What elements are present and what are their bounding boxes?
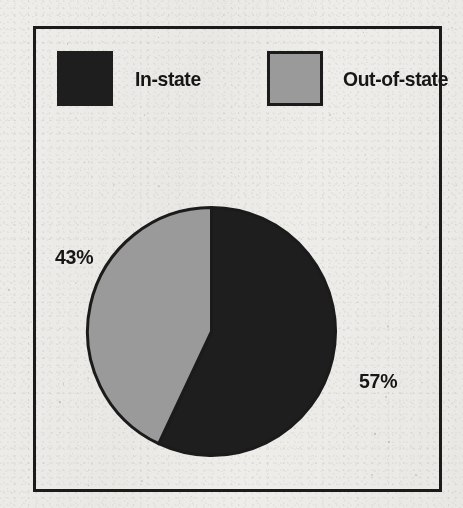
scan-speck	[29, 468, 31, 470]
scan-speck	[24, 100, 25, 101]
scan-speck	[456, 184, 458, 186]
scan-speck	[2, 201, 3, 202]
legend-label-out-of-state: Out-of-state	[343, 67, 448, 91]
scan-speck	[2, 111, 3, 112]
pie-chart-svg	[85, 204, 338, 459]
scan-speck	[459, 357, 460, 358]
scan-speck	[13, 90, 14, 91]
pie-chart-figure: In-state Out-of-state 43% 57%	[0, 0, 463, 508]
scan-speck	[314, 11, 315, 12]
scan-speck	[30, 321, 32, 323]
scan-speck	[461, 227, 462, 228]
scan-speck	[8, 305, 9, 306]
pie-chart	[85, 204, 338, 459]
scan-speck	[20, 6, 21, 7]
scan-speck	[225, 3, 226, 4]
scan-speck	[9, 120, 10, 121]
scan-speck	[8, 289, 10, 291]
slice-percent-in-state: 57%	[359, 369, 397, 393]
pie-slice-group	[87, 208, 335, 456]
scan-speck	[21, 229, 22, 230]
scan-speck	[451, 27, 453, 29]
legend-label-in-state: In-state	[135, 67, 201, 91]
legend-swatch-in-state	[57, 51, 113, 106]
scan-speck	[89, 17, 90, 18]
scan-speck	[7, 488, 8, 489]
scan-speck	[449, 231, 450, 232]
legend-swatch-out-of-state	[267, 51, 323, 106]
scan-speck	[191, 496, 192, 497]
